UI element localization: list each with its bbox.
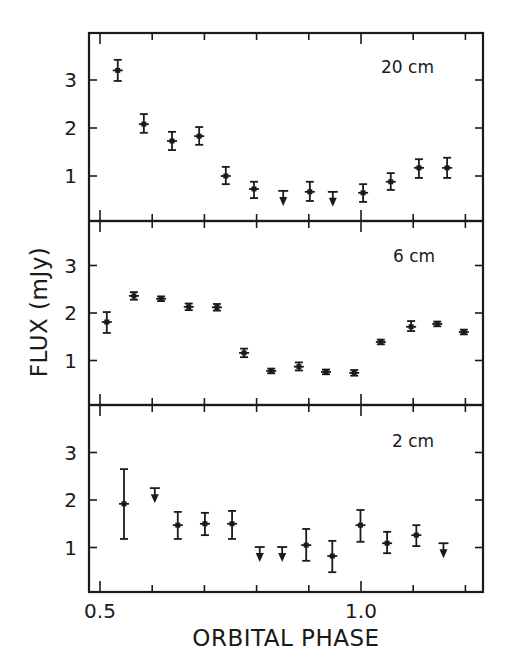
data-point	[376, 339, 386, 344]
x-tick-label: 0.5	[84, 599, 116, 623]
down-arrow-icon	[256, 553, 264, 562]
down-arrow-icon	[151, 494, 159, 503]
data-point	[249, 182, 259, 198]
band-label: 2 cm	[392, 431, 434, 451]
y-tick-label: 1	[64, 164, 77, 188]
data-point	[321, 369, 331, 374]
data-point	[129, 292, 139, 300]
upper-limit-marker	[255, 547, 265, 562]
upper-limit-marker	[438, 543, 448, 558]
data-point	[167, 132, 177, 150]
band-label: 20 cm	[381, 57, 434, 77]
data-point	[305, 182, 315, 201]
data-point	[386, 173, 396, 190]
data-point	[442, 158, 452, 178]
data-point	[432, 321, 442, 326]
y-axis-title: FLUX (mJy)	[26, 247, 52, 378]
y-tick-label: 2	[64, 488, 77, 512]
down-arrow-icon	[439, 549, 447, 558]
y-tick-label: 1	[64, 349, 77, 373]
data-point	[102, 312, 112, 333]
data-point	[414, 159, 424, 178]
data-point	[194, 127, 204, 145]
y-tick-label: 2	[64, 116, 77, 140]
data-point	[239, 349, 249, 358]
data-point	[200, 513, 210, 535]
data-point	[139, 114, 149, 133]
data-point	[221, 167, 231, 184]
data-point	[156, 296, 166, 301]
panel-2cm: 1232 cm	[64, 405, 483, 592]
data-point	[406, 321, 416, 331]
panels-group: 12320 cm1236 cm1232 cm	[64, 33, 483, 592]
data-point	[294, 362, 304, 370]
data-point	[119, 469, 129, 539]
upper-limit-marker	[150, 488, 160, 503]
x-tick-label: 1.0	[345, 599, 377, 623]
data-point	[184, 304, 194, 311]
data-point	[173, 512, 183, 539]
data-point	[411, 525, 421, 546]
chart-canvas: 12320 cm1236 cm1232 cm FLUX (mJy) ORBITA…	[0, 0, 510, 669]
down-arrow-icon	[329, 198, 337, 207]
data-point	[301, 529, 311, 561]
panel-20cm: 12320 cm	[64, 33, 483, 221]
data-point	[349, 370, 359, 376]
data-point	[113, 60, 123, 81]
data-point	[227, 511, 237, 539]
y-tick-label: 2	[64, 301, 77, 325]
data-point	[266, 368, 276, 373]
y-tick-label: 1	[64, 536, 77, 560]
x-tick-labels: 0.51.0	[84, 599, 377, 623]
down-arrow-icon	[278, 553, 286, 562]
down-arrow-icon	[279, 197, 287, 206]
y-tick-label: 3	[64, 441, 77, 465]
panel-6cm: 1236 cm	[64, 221, 483, 405]
data-point	[327, 541, 337, 572]
data-point	[212, 304, 222, 311]
flux-vs-orbital-phase-figure: 12320 cm1236 cm1232 cm FLUX (mJy) ORBITA…	[0, 0, 510, 669]
upper-limit-marker	[277, 547, 287, 562]
upper-limit-marker	[328, 192, 338, 207]
data-point	[355, 510, 365, 542]
data-point	[382, 532, 392, 553]
data-point	[358, 184, 368, 202]
y-tick-label: 3	[64, 254, 77, 278]
data-point	[459, 330, 469, 335]
band-label: 6 cm	[393, 246, 435, 266]
upper-limit-marker	[278, 191, 288, 206]
y-tick-label: 3	[64, 68, 77, 92]
x-axis-title: ORBITAL PHASE	[192, 625, 379, 651]
